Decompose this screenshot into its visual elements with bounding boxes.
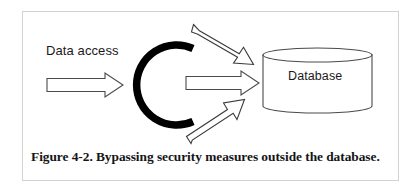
diagram-canvas — [0, 0, 420, 195]
database-cylinder-top — [263, 48, 372, 62]
through-arrow-middle — [186, 71, 259, 95]
figure-page: Data access Database Figure 4-2. Bypassi… — [0, 0, 420, 195]
bypass-arrow-top — [192, 25, 254, 65]
security-barrier-arc — [137, 45, 193, 125]
data-access-label: Data access — [46, 44, 119, 57]
database-label: Database — [288, 70, 342, 83]
figure-caption: Figure 4-2. Bypassing security measures … — [31, 149, 380, 165]
bypass-arrow-bottom — [187, 100, 245, 144]
database-cylinder-body — [263, 55, 372, 113]
data-access-arrow — [47, 73, 123, 97]
